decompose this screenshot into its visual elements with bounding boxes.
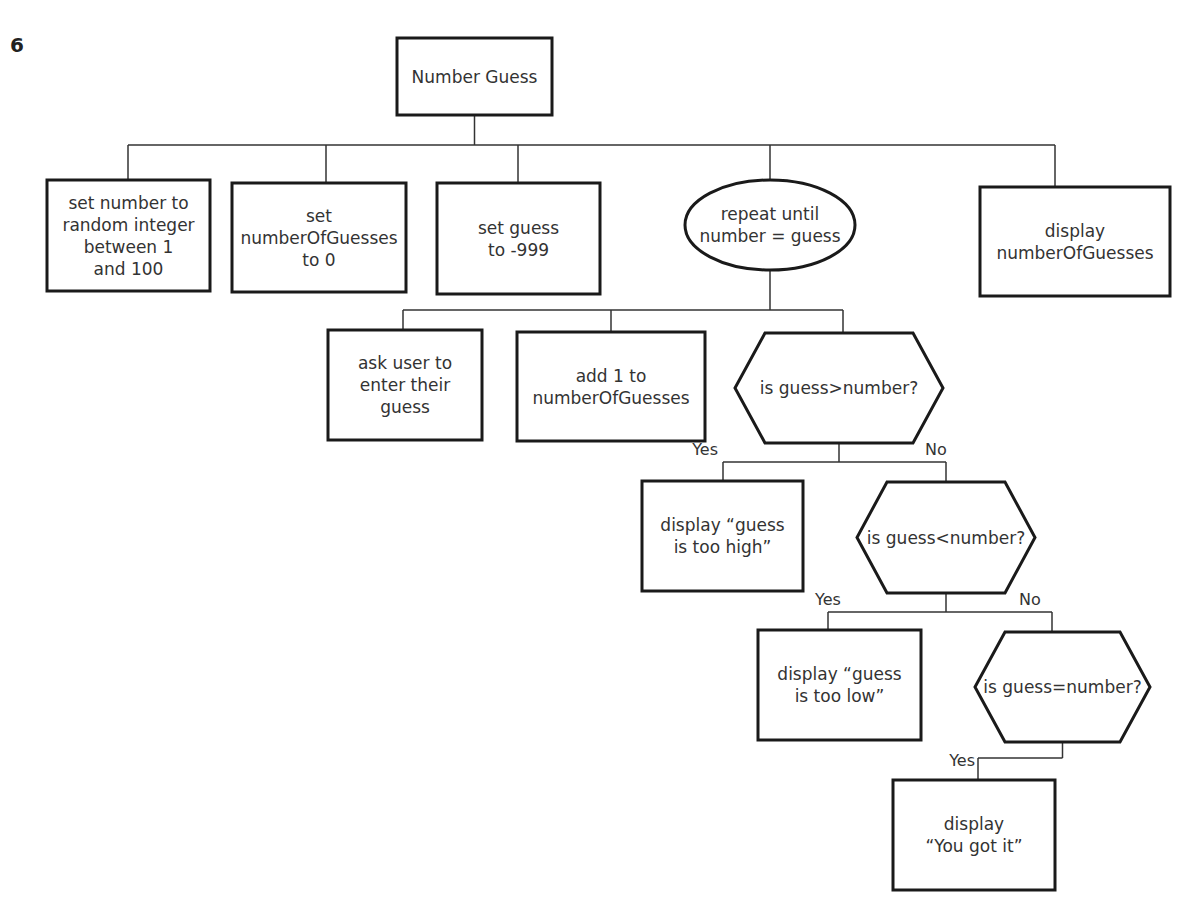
node-label-line: guess (380, 397, 430, 417)
nodes: Number Guessset number torandom integerb… (47, 38, 1170, 890)
process-box (642, 481, 803, 591)
node-label-line: Number Guess (412, 67, 538, 87)
node-q-equal: is guess=number? (975, 632, 1150, 742)
node-root: Number Guess (397, 38, 552, 115)
node-ask-user: ask user toenter theirguess (328, 330, 482, 440)
node-q-greater: is guess>number? (735, 333, 943, 443)
node-label-line: is guess>number? (760, 378, 918, 398)
node-label-line: numberOfGuesses (996, 243, 1153, 263)
node-label-line: enter their (360, 375, 450, 395)
node-too-high: display “guessis too high” (642, 481, 803, 591)
node-label-line: is guess<number? (867, 528, 1025, 548)
node-label-line: is guess=number? (983, 677, 1141, 697)
node-display-count: displaynumberOfGuesses (980, 187, 1170, 296)
node-label-line: set guess (478, 218, 559, 238)
branch-label-yes: Yes (814, 590, 841, 609)
structure-diagram: 6 Number Guessset number torandom intege… (0, 0, 1200, 909)
node-got-it: display“You got it” (893, 780, 1055, 890)
node-repeat: repeat untilnumber = guess (685, 180, 855, 270)
node-too-low: display “guessis too low” (758, 630, 921, 740)
process-box (980, 187, 1170, 296)
process-box (517, 332, 705, 441)
node-q-less: is guess<number? (857, 482, 1035, 593)
node-add-one: add 1 tonumberOfGuesses (517, 332, 705, 441)
node-label-line: and 100 (94, 259, 164, 279)
node-label-line: set (306, 206, 332, 226)
node-label-line: is too high” (674, 537, 772, 557)
node-set-number: set number torandom integerbetween 1and … (47, 180, 210, 291)
loop-ellipse (685, 180, 855, 270)
node-label-line: “You got it” (926, 836, 1023, 856)
node-label-line: numberOfGuesses (240, 228, 397, 248)
node-label-line: repeat until (721, 204, 819, 224)
node-label-line: ask user to (358, 353, 452, 373)
branch-label-no: No (1019, 590, 1041, 609)
node-label-line: random integer (62, 215, 194, 235)
branch-label-yes: Yes (948, 751, 975, 770)
node-label-line: numberOfGuesses (532, 388, 689, 408)
node-label-line: is too low” (795, 686, 885, 706)
node-label-line: to 0 (302, 250, 335, 270)
node-label-line: display (944, 814, 1004, 834)
process-box (758, 630, 921, 740)
branch-label-yes: Yes (691, 440, 718, 459)
node-set-guess: set guessto -999 (437, 183, 600, 294)
node-label-line: set number to (68, 193, 188, 213)
node-label: is guess=number? (983, 677, 1141, 697)
node-label: is guess<number? (867, 528, 1025, 548)
node-label-line: to -999 (488, 240, 549, 260)
process-box (893, 780, 1055, 890)
question-number: 6 (10, 33, 24, 57)
node-label: Number Guess (412, 67, 538, 87)
node-label-line: display (1045, 221, 1105, 241)
node-set-guesses: setnumberOfGuessesto 0 (232, 183, 406, 292)
node-label-line: between 1 (84, 237, 174, 257)
branch-label-no: No (925, 440, 947, 459)
process-box (437, 183, 600, 294)
node-label-line: display “guess (660, 515, 784, 535)
node-label-line: display “guess (777, 664, 901, 684)
node-label: is guess>number? (760, 378, 918, 398)
node-label-line: number = guess (699, 226, 840, 246)
node-label-line: add 1 to (576, 366, 647, 386)
